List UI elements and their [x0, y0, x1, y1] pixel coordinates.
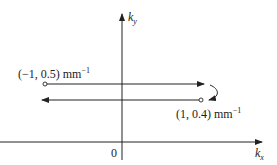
end-exp: −1 — [233, 106, 242, 115]
kx-label-sub: x — [260, 153, 264, 162]
k-space-diagram: ky kx 0 (−1, 0.5) mm−1 (1, 0.4) mm−1 — [0, 0, 277, 165]
kx-axis-label: kx — [255, 146, 264, 162]
ky-label-sub: y — [133, 17, 137, 26]
start-exp: −1 — [81, 66, 90, 75]
diagram-graphics — [0, 0, 277, 165]
start-point-label: (−1, 0.5) mm−1 — [18, 66, 90, 82]
origin-label: 0 — [111, 146, 117, 161]
start-coords: (−1, 0.5) mm — [18, 67, 81, 81]
end-coords: (1, 0.4) mm — [176, 107, 233, 121]
jump-arrow — [209, 85, 217, 100]
end-point — [199, 98, 203, 102]
start-point — [43, 82, 47, 86]
end-point-label: (1, 0.4) mm−1 — [176, 106, 241, 122]
ky-axis-label: ky — [128, 10, 137, 26]
